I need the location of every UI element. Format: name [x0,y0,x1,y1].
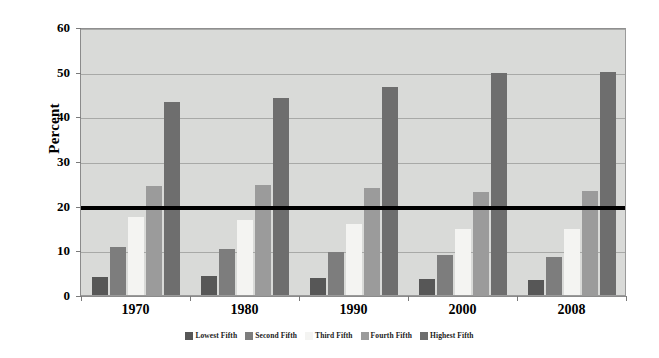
equal-share-line [81,206,625,210]
y-tick-mark [76,251,81,252]
bar [219,249,235,295]
bar [201,276,217,295]
chart-screenshot: Percent 0102030405060 197019801990200020… [0,0,659,358]
bar [346,224,362,295]
legend-label: Lowest Fifth [195,331,237,340]
y-tick-label: 30 [57,154,70,170]
legend-label: Fourth Fifth [371,331,412,340]
y-tick-mark [76,117,81,118]
bar [455,229,471,295]
bar [328,252,344,295]
x-tick-mark [81,296,82,301]
x-tick-label: 1980 [231,302,259,318]
y-tick-mark [76,296,81,297]
bar-group [81,29,190,295]
bar-group [517,29,626,295]
y-tick-mark [76,73,81,74]
x-tick-mark [408,296,409,301]
y-tick-label: 50 [57,65,70,81]
bar [146,186,162,295]
legend-item[interactable]: Fourth Fifth [361,331,412,340]
x-tick-mark [626,296,627,301]
bar [364,188,380,295]
bar [437,255,453,295]
bar [273,98,289,295]
bar [528,280,544,295]
bar [310,278,326,295]
legend-swatch-icon [185,332,193,340]
x-tick-label: 2000 [449,302,477,318]
legend-label: Second Fifth [255,331,297,340]
y-tick-mark [76,28,81,29]
legend-item[interactable]: Lowest Fifth [185,331,237,340]
x-tick-mark [517,296,518,301]
bar [491,73,507,295]
x-axis-line [80,296,627,297]
legend-swatch-icon [245,332,253,340]
y-tick-label: 10 [57,243,70,259]
bar-group [408,29,517,295]
bar [92,277,108,295]
x-tick-label: 1970 [122,302,150,318]
legend-item[interactable]: Third Fifth [305,331,353,340]
x-tick-mark [190,296,191,301]
y-axis-tick-labels: 0102030405060 [34,0,74,358]
y-tick-label: 40 [57,109,70,125]
x-tick-mark [299,296,300,301]
x-tick-label: 2008 [558,302,586,318]
bar [382,87,398,295]
bar [255,185,271,295]
legend-item[interactable]: Highest Fifth [420,331,474,340]
bar-group [299,29,408,295]
plot-area [81,28,626,296]
legend-label: Highest Fifth [430,331,474,340]
legend-swatch-icon [361,332,369,340]
chart-legend: Lowest FifthSecond FifthThird FifthFourt… [0,331,659,340]
x-tick-label: 1990 [340,302,368,318]
bar [128,217,144,295]
legend-swatch-icon [305,332,313,340]
bar [419,279,435,295]
y-tick-label: 0 [64,288,71,304]
bar [546,257,562,295]
y-tick-mark [76,162,81,163]
bar-group [190,29,299,295]
y-tick-label: 20 [57,199,70,215]
bar [237,220,253,295]
bar [600,72,616,295]
bar [110,247,126,295]
y-tick-label: 60 [57,20,70,36]
legend-item[interactable]: Second Fifth [245,331,297,340]
bar [564,229,580,295]
legend-swatch-icon [420,332,428,340]
legend-label: Third Fifth [315,331,353,340]
bar [164,102,180,295]
